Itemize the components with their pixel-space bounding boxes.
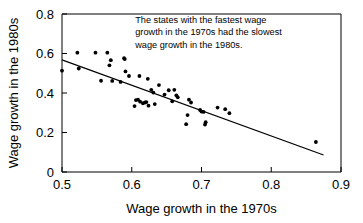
y-tick-label-0: 0 [47, 165, 54, 180]
data-point-0 [60, 69, 64, 73]
data-point-4 [99, 79, 103, 83]
data-point-44 [223, 107, 227, 111]
y-tick-label-4: 0.8 [36, 7, 54, 22]
data-point-33 [176, 95, 180, 99]
data-point-45 [228, 111, 232, 115]
data-point-13 [127, 74, 131, 78]
data-point-42 [204, 120, 208, 124]
data-point-3 [94, 51, 98, 55]
data-point-28 [163, 93, 167, 97]
y-axis-title: Wage growth in the 1980s [6, 17, 21, 168]
data-point-43 [216, 106, 220, 110]
data-point-22 [146, 77, 150, 81]
data-point-27 [157, 83, 161, 87]
x-tick-label-1: 0.6 [123, 177, 141, 192]
data-point-21 [144, 100, 148, 104]
x-tick-label-4: 0.9 [332, 177, 350, 192]
data-point-7 [109, 58, 113, 62]
data-point-1 [75, 51, 79, 55]
x-tick-label-3: 0.8 [262, 177, 280, 192]
data-point-12 [124, 70, 128, 74]
data-point-35 [186, 113, 190, 117]
x-tick-label-2: 0.7 [192, 177, 210, 192]
data-point-2 [77, 67, 81, 71]
data-point-37 [189, 101, 193, 105]
annotation-line-0: The states with the fastest wage [135, 15, 266, 25]
data-point-5 [105, 51, 109, 55]
annotation-line-1: growth in the 1970s had the slowest [135, 27, 282, 37]
data-point-46 [314, 140, 318, 144]
scatter-plot: 0.50.60.70.80.9 00.20.40.60.8 The states… [0, 0, 363, 223]
x-tick-label-0: 0.5 [53, 177, 71, 192]
x-axis-title: Wage growth in the 1970s [126, 201, 277, 216]
data-point-31 [172, 88, 176, 92]
data-point-23 [147, 104, 151, 108]
y-tick-label-3: 0.6 [36, 46, 54, 61]
chart-screenshot: 0.50.60.70.80.9 00.20.40.60.8 The states… [0, 0, 363, 223]
data-point-8 [110, 79, 114, 83]
data-point-14 [133, 104, 137, 108]
annotation-line-2: wage growth in the 1980s. [134, 40, 242, 50]
data-point-26 [153, 102, 157, 106]
data-point-29 [167, 88, 171, 92]
data-point-11 [123, 57, 127, 61]
data-point-17 [138, 74, 142, 78]
data-point-34 [184, 122, 188, 126]
y-tick-label-1: 0.2 [36, 125, 54, 140]
data-point-6 [108, 63, 112, 67]
y-tick-label-2: 0.4 [36, 86, 54, 101]
